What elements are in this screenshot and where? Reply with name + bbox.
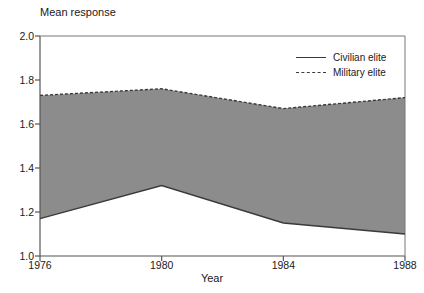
x-tick-label: 1988	[393, 259, 416, 271]
y-axis-tick-labels: 1.01.21.41.61.82.0	[4, 0, 34, 293]
area-fill-band	[40, 89, 405, 234]
x-axis-title: Year	[0, 272, 424, 284]
dashed-line-icon	[296, 68, 326, 77]
y-tick-label: 1.8	[8, 74, 34, 86]
x-tick-label: 1984	[272, 259, 295, 271]
y-tick-label: 1.6	[8, 118, 34, 130]
y-tick-label: 1.2	[8, 206, 34, 218]
y-tick-label: 1.4	[8, 162, 34, 174]
y-tick-label: 2.0	[8, 30, 34, 42]
x-tick-label: 1976	[28, 259, 51, 271]
legend-item[interactable]: Civilian elite	[296, 50, 386, 65]
x-tick-label: 1980	[150, 259, 173, 271]
chart-legend: Civilian eliteMilitary elite	[296, 50, 386, 80]
legend-item[interactable]: Military elite	[296, 65, 386, 80]
plot-area	[0, 0, 424, 293]
chart-container: Mean response 1.01.21.41.61.82.0 1976198…	[0, 0, 424, 293]
solid-line-icon	[296, 53, 326, 62]
legend-item-label: Civilian elite	[333, 52, 386, 63]
legend-item-label: Military elite	[333, 67, 386, 78]
